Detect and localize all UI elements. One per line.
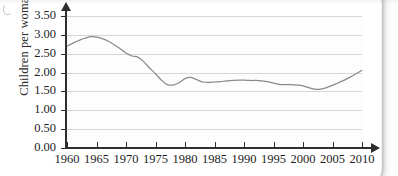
x-axis-tick [333, 142, 334, 147]
x-axis-line [66, 147, 373, 149]
y-axis-arrow-icon [61, 2, 71, 11]
y-axis-tick [61, 16, 66, 17]
x-axis-tick [67, 142, 68, 147]
x-axis-tick [244, 142, 245, 147]
x-axis-tick [274, 142, 275, 147]
y-axis-tick [61, 91, 66, 92]
x-axis-tick [185, 142, 186, 147]
y-axis-tick-label: 1.50 [14, 83, 56, 98]
y-axis-tick-label: 3.50 [14, 8, 56, 23]
x-axis-tick [362, 142, 363, 147]
page-edge-shadow [381, 0, 398, 176]
y-axis-tick-label: 0.50 [14, 121, 56, 136]
y-axis-tick [61, 110, 66, 111]
x-axis-tick-label: 2010 [340, 152, 384, 167]
line-series [67, 16, 362, 148]
x-axis-tick [126, 142, 127, 147]
y-axis-tick [61, 148, 66, 149]
y-axis-tick-label: 2.00 [14, 65, 56, 80]
y-axis-tick-label: 3.00 [14, 27, 56, 42]
x-axis-tick [215, 142, 216, 147]
y-axis-tick [61, 73, 66, 74]
y-axis-tick [61, 129, 66, 130]
y-axis-line [65, 9, 67, 149]
x-axis-tick [97, 142, 98, 147]
plot-area [67, 16, 362, 148]
scan-artifact [3, 4, 12, 15]
y-axis-tick-label: 1.00 [14, 102, 56, 117]
y-axis-tick-label: 2.50 [14, 46, 56, 61]
x-axis-tick [156, 142, 157, 147]
y-axis-tick [61, 54, 66, 55]
series-path-children-per-woman [67, 37, 362, 90]
y-axis-tick [61, 35, 66, 36]
scan-top-edge [0, 0, 398, 4]
chart-page: Children per woman 0.000.501.001.502.002… [0, 0, 398, 176]
x-axis-tick [303, 142, 304, 147]
